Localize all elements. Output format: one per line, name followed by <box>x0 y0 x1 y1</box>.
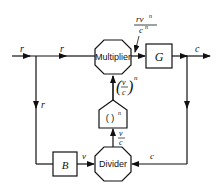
signal-label-c-out: c <box>195 43 200 54</box>
signal-label-r-mid: r <box>60 43 64 54</box>
signal-label-c-feedback: c <box>150 151 154 161</box>
branch-line-r-down <box>36 56 53 164</box>
svg-text:n: n <box>149 13 152 19</box>
power-label: ( ) <box>106 113 115 123</box>
power-output-label: ( v c ) n <box>116 74 138 97</box>
svg-text:v: v <box>122 78 126 87</box>
svg-text:n: n <box>134 74 138 82</box>
svg-text:c: c <box>119 138 123 147</box>
label-pointer-arrow <box>135 36 139 52</box>
power-block: ( ) n <box>99 100 127 128</box>
svg-text:): ) <box>127 78 133 96</box>
signal-label-r-down: r <box>41 99 45 110</box>
svg-text:c: c <box>139 25 143 35</box>
divider-output-label: v c <box>118 129 125 147</box>
block-diagram: r r r Multiplier rv n c n G c c B <box>0 0 224 191</box>
power-exponent: n <box>118 110 121 116</box>
svg-text:rv: rv <box>136 14 144 24</box>
b-block: B <box>53 152 77 176</box>
svg-text:c: c <box>122 88 126 97</box>
multiplier-label: Multiplier <box>95 52 131 62</box>
b-label: B <box>62 159 69 171</box>
multiplier-block: Multiplier <box>95 40 131 74</box>
divider-label: Divider <box>99 159 127 169</box>
g-label: G <box>155 50 164 64</box>
g-block: G <box>146 44 172 68</box>
divider-block: Divider <box>95 147 131 181</box>
signal-label-v: v <box>82 151 86 161</box>
feedback-line-c <box>132 56 187 164</box>
multiplier-output-label: rv n c n <box>134 13 157 35</box>
svg-text:v: v <box>119 129 123 138</box>
signal-label-r-in: r <box>20 43 24 54</box>
svg-text:n: n <box>145 24 148 30</box>
